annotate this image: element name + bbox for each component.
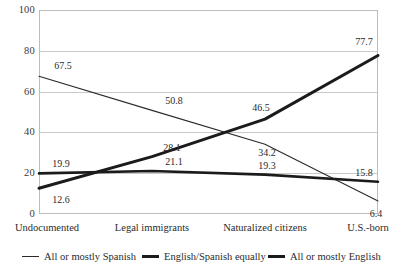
data-value-label: 21.1 <box>165 157 183 167</box>
gridline <box>40 92 377 93</box>
legend-line-swatch <box>22 256 39 257</box>
data-value-label: 19.3 <box>258 161 276 171</box>
x-tick-label: Undocumented <box>15 222 79 233</box>
data-value-label: 46.5 <box>252 103 270 113</box>
x-tick-label: Naturalized citizens <box>223 222 307 233</box>
data-value-label: 77.7 <box>355 37 373 47</box>
legend-line-swatch <box>268 255 285 258</box>
data-value-label: 6.4 <box>370 209 383 219</box>
chart-legend: All or mostly SpanishEnglish/Spanish equ… <box>0 248 401 268</box>
data-value-label: 67.5 <box>54 61 72 71</box>
data-value-label: 19.9 <box>52 159 70 169</box>
y-tick-label: 80 <box>3 46 35 57</box>
plot-area <box>39 10 378 214</box>
legend-item[interactable]: All or mostly English <box>268 251 381 262</box>
data-value-label: 28.1 <box>163 143 181 153</box>
legend-line-swatch <box>142 255 159 258</box>
legend-label: All or mostly English <box>290 251 381 262</box>
x-tick-label: Legal immigrants <box>115 222 189 233</box>
y-tick-label: 40 <box>3 127 35 138</box>
data-value-label: 12.6 <box>52 195 70 205</box>
x-tick-label: U.S.-born <box>347 222 388 233</box>
x-axis: UndocumentedLegal immigrantsNaturalized … <box>39 222 378 238</box>
y-tick-label: 20 <box>3 168 35 179</box>
gridline <box>40 132 377 133</box>
data-value-label: 50.8 <box>165 96 183 106</box>
legend-label: All or mostly Spanish <box>44 251 136 262</box>
y-tick-label: 100 <box>3 5 35 16</box>
data-value-label: 15.8 <box>355 168 373 178</box>
data-value-label: 34.2 <box>258 148 276 158</box>
gridline <box>40 173 377 174</box>
legend-item[interactable]: English/Spanish equally <box>142 251 266 262</box>
gridline <box>40 51 377 52</box>
y-tick-label: 0 <box>3 209 35 220</box>
legend-label: English/Spanish equally <box>164 251 266 262</box>
y-tick-label: 60 <box>3 87 35 98</box>
legend-item[interactable]: All or mostly Spanish <box>22 251 136 262</box>
line-chart: 020406080100 67.550.834.26.412.628.146.5… <box>0 0 401 272</box>
